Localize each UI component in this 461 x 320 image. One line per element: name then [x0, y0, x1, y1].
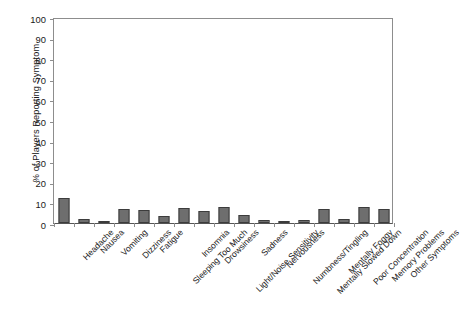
x-axis-tick-mark [94, 223, 95, 227]
x-axis-tick-mark [354, 223, 355, 227]
y-axis-tick-mark [50, 40, 54, 41]
y-axis-tick-label: 10 [10, 200, 46, 209]
bar-slot [274, 19, 294, 223]
y-axis-tick-mark [50, 60, 54, 61]
y-axis-tick-mark [50, 184, 54, 185]
y-axis-tick-label: 0 [10, 221, 46, 230]
bar [139, 210, 150, 223]
bar-slot [54, 19, 74, 223]
bar-slot [94, 19, 114, 223]
x-axis-tick-mark [54, 223, 55, 227]
bar [179, 208, 190, 223]
y-axis-tick-label: 80 [10, 56, 46, 65]
x-axis-tick-mark [74, 223, 75, 227]
bar-slot [174, 19, 194, 223]
y-axis-tick-label: 30 [10, 159, 46, 168]
bar-slot [134, 19, 154, 223]
bar [279, 221, 290, 223]
y-axis-tick-label: 70 [10, 76, 46, 85]
x-axis-tick-mark [314, 223, 315, 227]
bar [239, 215, 250, 223]
bar-slot [214, 19, 234, 223]
x-axis-tick-mark [154, 223, 155, 227]
bar-slot [194, 19, 214, 223]
y-axis-tick-label: 20 [10, 179, 46, 188]
bar-slot [334, 19, 354, 223]
bar-slot [314, 19, 334, 223]
bar [79, 219, 90, 223]
x-axis-tick-mark [334, 223, 335, 227]
bar-slot [234, 19, 254, 223]
bar-slot [374, 19, 394, 223]
x-axis-labels: HeadacheNauseaVomitingDizzinessFatigueSl… [53, 228, 393, 320]
bar [59, 198, 70, 223]
bar [359, 207, 370, 223]
y-axis-tick-label: 100 [10, 15, 46, 24]
x-axis-tick-mark [374, 223, 375, 227]
x-axis-tick-mark [114, 223, 115, 227]
x-axis-tick-mark [214, 223, 215, 227]
bar [159, 216, 170, 223]
bar-slot [294, 19, 314, 223]
y-axis-tick-label: 50 [10, 118, 46, 127]
y-axis-tick-mark [50, 19, 54, 20]
x-axis-tick-mark [194, 223, 195, 227]
y-axis-tick-label: 90 [10, 35, 46, 44]
bar-slot [354, 19, 374, 223]
bars-layer [54, 19, 392, 223]
x-axis-tick-mark [134, 223, 135, 227]
bar [339, 219, 350, 223]
bar [299, 220, 310, 223]
x-axis-tick-mark [294, 223, 295, 227]
x-axis-tick-mark [274, 223, 275, 227]
bar-slot [254, 19, 274, 223]
bar [119, 209, 130, 223]
bar [199, 211, 210, 223]
bar [99, 221, 110, 223]
plot-area: 0102030405060708090100 [53, 18, 393, 224]
y-axis-tick-label: 60 [10, 97, 46, 106]
y-axis-tick-mark [50, 163, 54, 164]
x-axis-tick-mark [174, 223, 175, 227]
x-axis-tick-mark [234, 223, 235, 227]
bar [379, 209, 390, 223]
bar [259, 220, 270, 223]
bar-slot [114, 19, 134, 223]
y-axis-tick-mark [50, 204, 54, 205]
y-axis-tick-mark [50, 143, 54, 144]
y-axis-tick-mark [50, 122, 54, 123]
bar-slot [74, 19, 94, 223]
x-axis-tick-mark [394, 223, 395, 227]
bar [219, 207, 230, 223]
y-axis-tick-mark [50, 81, 54, 82]
y-axis-tick-mark [50, 101, 54, 102]
x-axis-tick-mark [254, 223, 255, 227]
bar-slot [154, 19, 174, 223]
y-axis-tick-label: 40 [10, 138, 46, 147]
bar [319, 209, 330, 223]
